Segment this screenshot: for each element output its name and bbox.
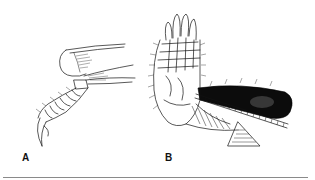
bottom-rule-divider <box>3 177 308 178</box>
panel-label-a: A <box>22 153 29 163</box>
dark-lobe <box>198 86 292 119</box>
panel-label-b: B <box>165 153 172 163</box>
figure: A B <box>0 0 315 180</box>
panel-b-drawing <box>0 0 315 180</box>
